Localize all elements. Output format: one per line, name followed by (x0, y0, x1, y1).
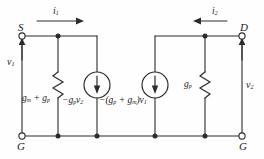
source-left-sub2: 2 (80, 99, 83, 105)
circuit-diagram: S D G G i1 i2 v1 v2 gm + gp gp −gpv2 −(g… (0, 0, 264, 159)
voltage-label-v2-sub: 2 (250, 83, 253, 90)
voltage-label-v1-sub: 1 (11, 60, 14, 67)
current-label-i1: i1 (53, 7, 59, 17)
source-label-right: −(gp + gm)v1 (99, 96, 147, 106)
terminal-node-G-left[interactable] (19, 133, 25, 139)
terminal-label-G-right: G (239, 141, 247, 152)
terminal-node-S[interactable] (19, 33, 25, 39)
junction-dot-bottom-left-source (95, 134, 100, 139)
terminal-node-D[interactable] (239, 33, 245, 39)
source-label-left: −gpv2 (62, 96, 83, 106)
i2-arrow-head (193, 18, 201, 25)
junction-dot-top-right-resistor (203, 34, 208, 39)
element-label-right-conductance: gp (184, 80, 192, 90)
voltage-label-v1: v1 (7, 57, 15, 68)
terminal-node-G-right[interactable] (239, 133, 245, 139)
source-right-suffix: )v (136, 95, 143, 105)
current-label-i2-sub: 2 (215, 10, 218, 16)
source-left-prefix: −g (62, 95, 73, 105)
current-label-i2: i2 (212, 7, 218, 17)
right-resistor-zigzag (200, 72, 210, 98)
junction-dot-top-left-resistor (56, 34, 61, 39)
schematic-canvas (0, 0, 264, 159)
element-label-left-conductance: gm + gp (22, 94, 50, 104)
junction-dot-bottom-right-source (153, 134, 158, 139)
source-right-mid: + g (116, 95, 132, 105)
junction-dot-bottom-right-resistor (203, 134, 208, 139)
current-label-i1-sub: 1 (56, 10, 59, 16)
i1-arrow-head (76, 18, 84, 25)
left-conductance-tail-sub: p (47, 97, 50, 103)
terminal-label-S: S (18, 22, 24, 33)
terminal-label-D: D (240, 22, 248, 33)
voltage-label-v2: v2 (246, 80, 254, 91)
left-conductance-tail: + g (31, 93, 47, 103)
source-right-sub3: 1 (144, 99, 147, 105)
right-conductance-sub: p (189, 83, 192, 89)
terminal-label-G-left: G (17, 141, 25, 152)
junction-dot-bottom-left-resistor (56, 134, 61, 139)
source-right-prefix: −(g (99, 95, 113, 105)
